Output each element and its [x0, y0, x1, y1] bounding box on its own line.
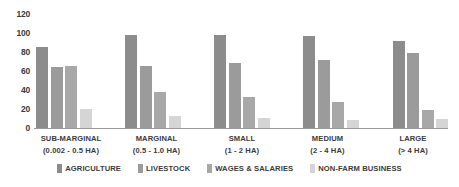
category-label: LARGE(> 4 HA) [378, 133, 448, 159]
category-name: SMALL [229, 134, 256, 143]
category-range: (2 - 4 HA) [293, 145, 363, 157]
bar [80, 109, 92, 128]
category-label: MARGINAL(0.5 - 1.0 HA) [122, 133, 192, 159]
category-name: LARGE [399, 134, 426, 143]
bar [243, 97, 255, 128]
category-name: MEDIUM [312, 134, 343, 143]
bar-group [393, 14, 449, 128]
legend-label: NON-FARM BUSINESS [318, 164, 402, 173]
bar [347, 120, 359, 128]
category-range: (1 - 2 HA) [207, 145, 277, 157]
legend-item: WAGES & SALARIES [207, 164, 293, 173]
y-axis: 020406080100120 [0, 14, 34, 128]
bar [169, 116, 181, 128]
legend-swatch-icon [207, 164, 212, 173]
category-range: (0.002 - 0.5 HA) [36, 145, 106, 157]
legend-item: NON-FARM BUSINESS [310, 164, 402, 173]
bar [125, 35, 137, 128]
bar [332, 102, 344, 128]
bar [36, 47, 48, 128]
legend-label: WAGES & SALARIES [215, 164, 293, 173]
category-range: (0.5 - 1.0 HA) [122, 145, 192, 157]
category-name: SUB-MARGINAL [41, 134, 102, 143]
bar [258, 118, 270, 128]
bar [229, 63, 241, 128]
bar [393, 41, 405, 128]
legend-item: AGRICULTURE [57, 164, 121, 173]
y-axis-tick: 60 [21, 66, 30, 76]
y-axis-tick: 40 [21, 85, 30, 95]
x-axis-line [34, 128, 448, 129]
legend-swatch-icon [310, 164, 315, 173]
bar [422, 110, 434, 128]
category-range: (> 4 HA) [378, 145, 448, 157]
y-axis-tick: 80 [21, 47, 30, 57]
bar [51, 67, 63, 128]
legend-label: LIVESTOCK [146, 164, 190, 173]
legend-swatch-icon [138, 164, 143, 173]
bar [214, 35, 226, 128]
plot-area [36, 14, 448, 128]
bar-group [125, 14, 181, 128]
legend: AGRICULTURELIVESTOCKWAGES & SALARIESNON-… [0, 164, 459, 173]
bar [303, 36, 315, 128]
bar [436, 119, 448, 129]
category-label: SMALL(1 - 2 HA) [207, 133, 277, 159]
bar [140, 66, 152, 128]
legend-item: LIVESTOCK [138, 164, 190, 173]
category-label: MEDIUM(2 - 4 HA) [293, 133, 363, 159]
bar-group [303, 14, 359, 128]
category-name: MARGINAL [136, 134, 178, 143]
bar [65, 66, 77, 128]
category-label: SUB-MARGINAL(0.002 - 0.5 HA) [36, 133, 106, 159]
bar-group [214, 14, 270, 128]
y-axis-tick: 0 [25, 123, 30, 133]
legend-label: AGRICULTURE [65, 164, 121, 173]
legend-swatch-icon [57, 164, 62, 173]
bar [154, 92, 166, 128]
bar [318, 60, 330, 128]
y-axis-tick: 100 [16, 28, 30, 38]
bar-groups [36, 14, 448, 128]
category-labels: SUB-MARGINAL(0.002 - 0.5 HA)MARGINAL(0.5… [36, 133, 448, 159]
y-axis-tick: 20 [21, 104, 30, 114]
y-axis-tick: 120 [16, 9, 30, 19]
bar [407, 53, 419, 128]
bar-group [36, 14, 92, 128]
bar-chart: 020406080100120 SUB-MARGINAL(0.002 - 0.5… [0, 0, 459, 187]
